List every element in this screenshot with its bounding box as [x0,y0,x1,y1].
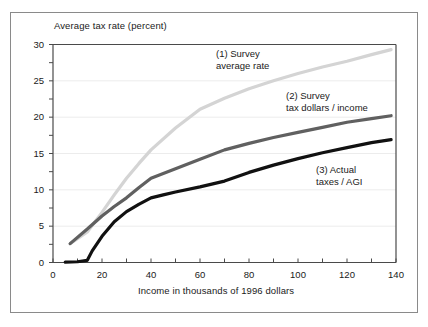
x-tick-label: 60 [187,269,213,280]
x-tick-label: 80 [236,269,262,280]
series-1-annotation: (1) Survey average rate [216,48,269,71]
y-tick-label: 30 [22,39,44,50]
y-tick-label: 5 [22,220,44,231]
series-3-annotation: (3) Actual taxes / AGI [316,164,362,187]
series-2-annotation: (2) Survey tax dollars / income [286,90,368,113]
series-2-annotation-line2: tax dollars / income [286,102,368,114]
y-tick-label: 15 [22,148,44,159]
series-3-annotation-line1: (3) Actual [316,164,362,176]
y-tick-label: 0 [22,257,44,268]
y-tick-label: 20 [22,111,44,122]
x-tick-label: 100 [285,269,311,280]
x-tick-label: 40 [138,269,164,280]
x-tick-label: 0 [40,269,66,280]
gridlines [53,45,396,263]
series-paths [65,50,391,263]
x-axis-title: Income in thousands of 1996 dollars [138,285,294,296]
chart-plot-area: Average tax rate (percent) 302520151050 … [0,0,428,327]
y-axis-title: Average tax rate (percent) [54,20,167,31]
series-2-annotation-line1: (2) Survey [286,90,368,102]
y-tick-label: 10 [22,184,44,195]
y-tick-label: 25 [22,75,44,86]
series-3-annotation-line2: taxes / AGI [316,176,362,188]
x-tick-label: 140 [383,269,409,280]
series-1-annotation-line1: (1) Survey [216,48,269,60]
x-tick-label: 120 [334,269,360,280]
series-1-annotation-line2: average rate [216,60,269,72]
x-tick-label: 20 [89,269,115,280]
